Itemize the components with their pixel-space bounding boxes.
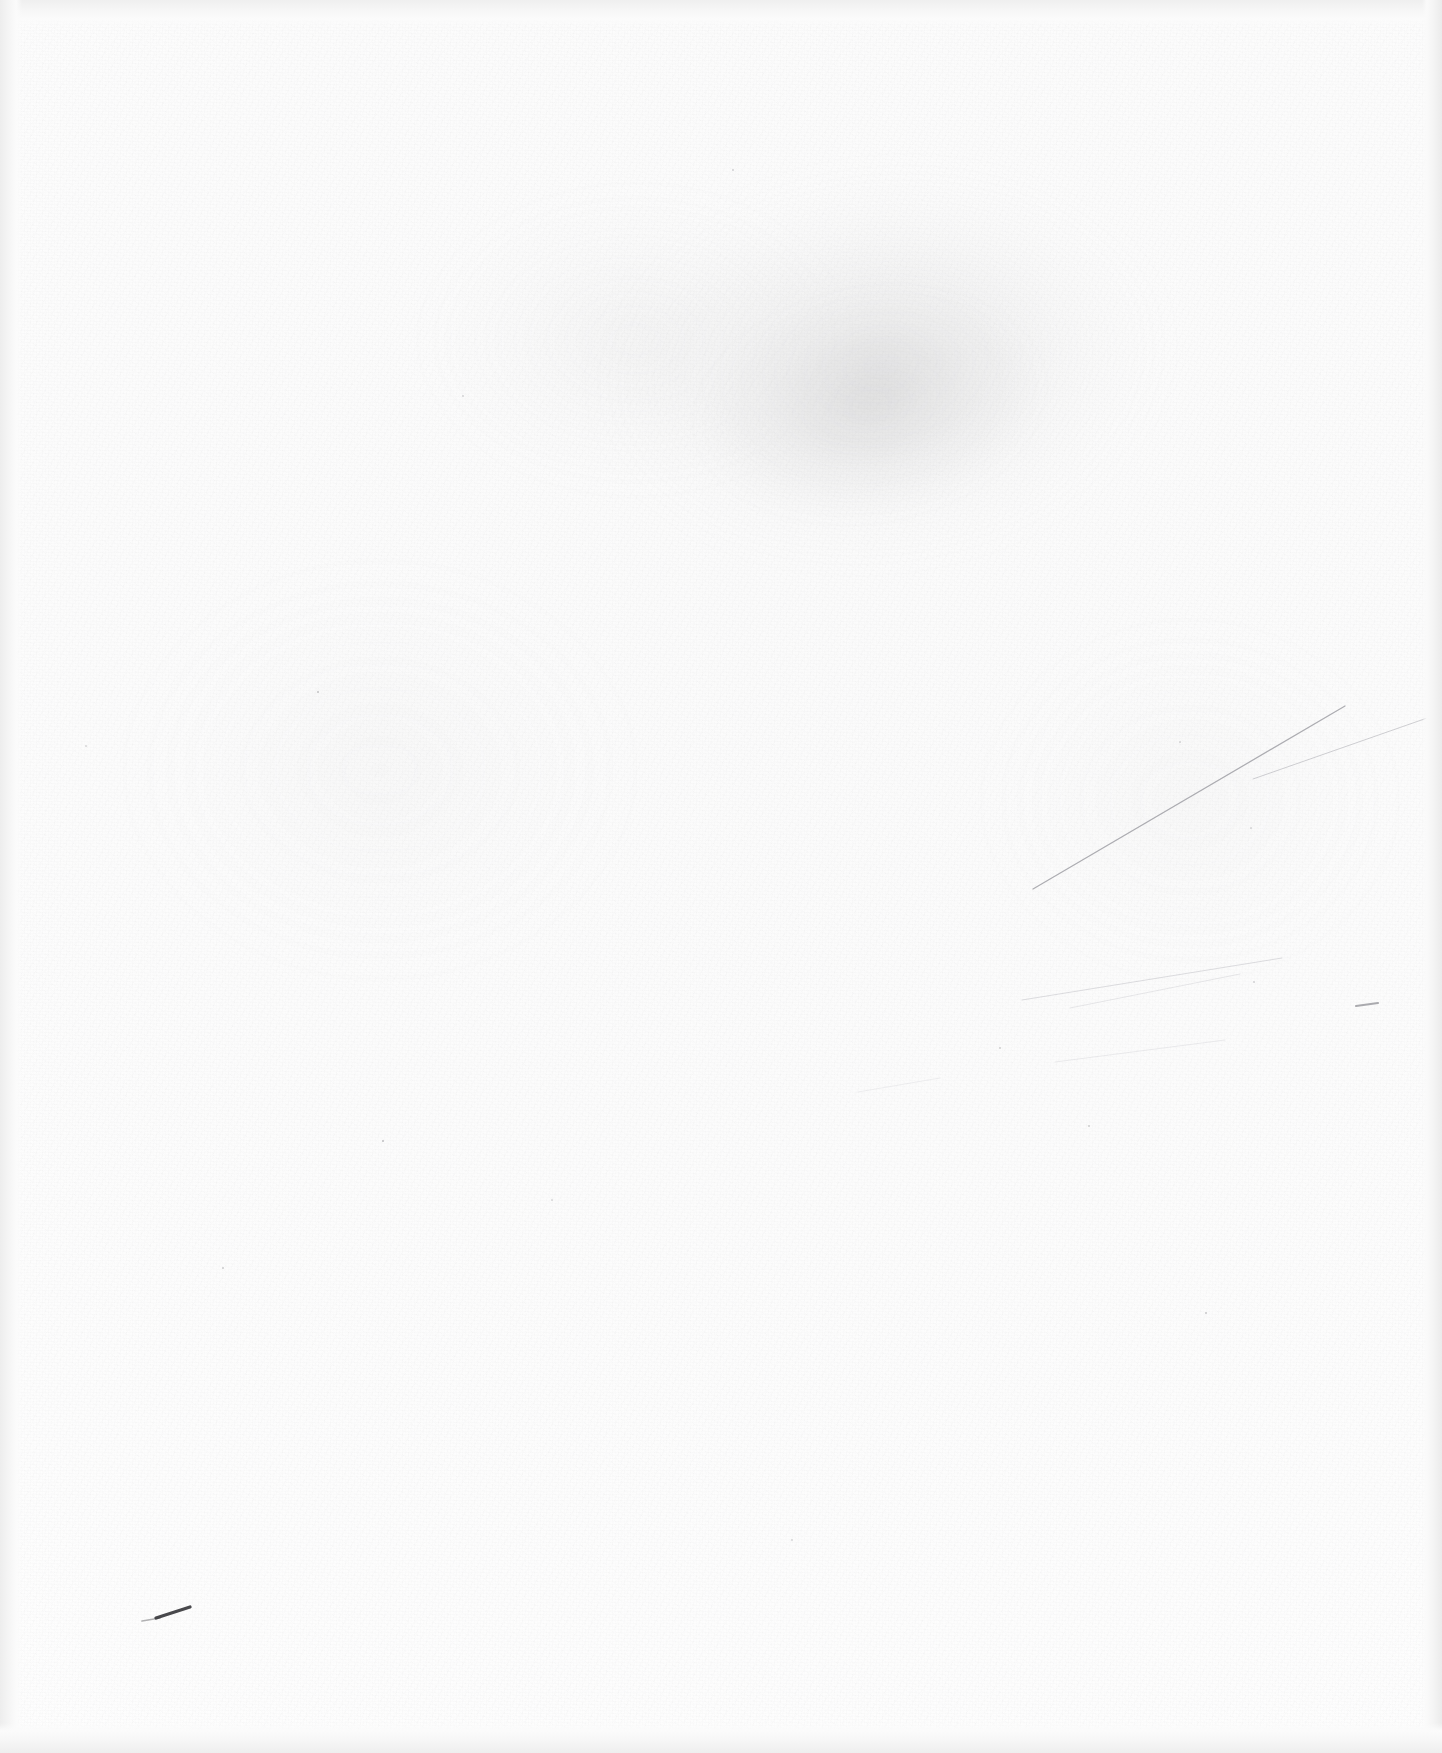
scanned-page (0, 0, 1442, 1753)
paper-background (0, 0, 1442, 1753)
